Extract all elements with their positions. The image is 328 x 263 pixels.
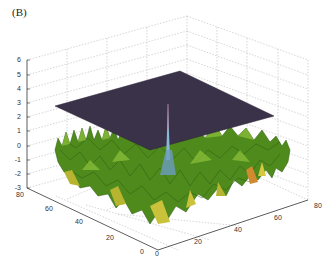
surface-plot: 6 5 4 3 2 1 0 -1 -2 -3 80 60 40 20 0 0 2… [0, 0, 328, 263]
svg-text:20: 20 [194, 238, 202, 245]
svg-text:-1: -1 [15, 156, 21, 163]
svg-text:6: 6 [17, 56, 21, 63]
z-axis-ticks: 6 5 4 3 2 1 0 -1 -2 -3 [15, 56, 21, 191]
svg-text:80: 80 [16, 191, 24, 198]
svg-text:0: 0 [155, 250, 159, 257]
svg-text:5: 5 [17, 71, 21, 78]
svg-text:-3: -3 [15, 184, 21, 191]
svg-text:1: 1 [17, 127, 21, 134]
x-axis-ticks: 0 20 40 60 80 [155, 202, 322, 257]
svg-text:40: 40 [234, 226, 242, 233]
svg-text:20: 20 [106, 234, 114, 241]
svg-text:2: 2 [17, 113, 21, 120]
svg-text:0: 0 [17, 142, 21, 149]
svg-text:0: 0 [140, 248, 144, 255]
svg-text:3: 3 [17, 99, 21, 106]
svg-text:60: 60 [45, 205, 53, 212]
svg-text:40: 40 [75, 218, 83, 225]
z-axis-tick-marks [27, 60, 30, 188]
svg-text:4: 4 [17, 85, 21, 92]
svg-text:80: 80 [314, 202, 322, 209]
svg-text:60: 60 [274, 214, 282, 221]
svg-text:-2: -2 [15, 170, 21, 177]
